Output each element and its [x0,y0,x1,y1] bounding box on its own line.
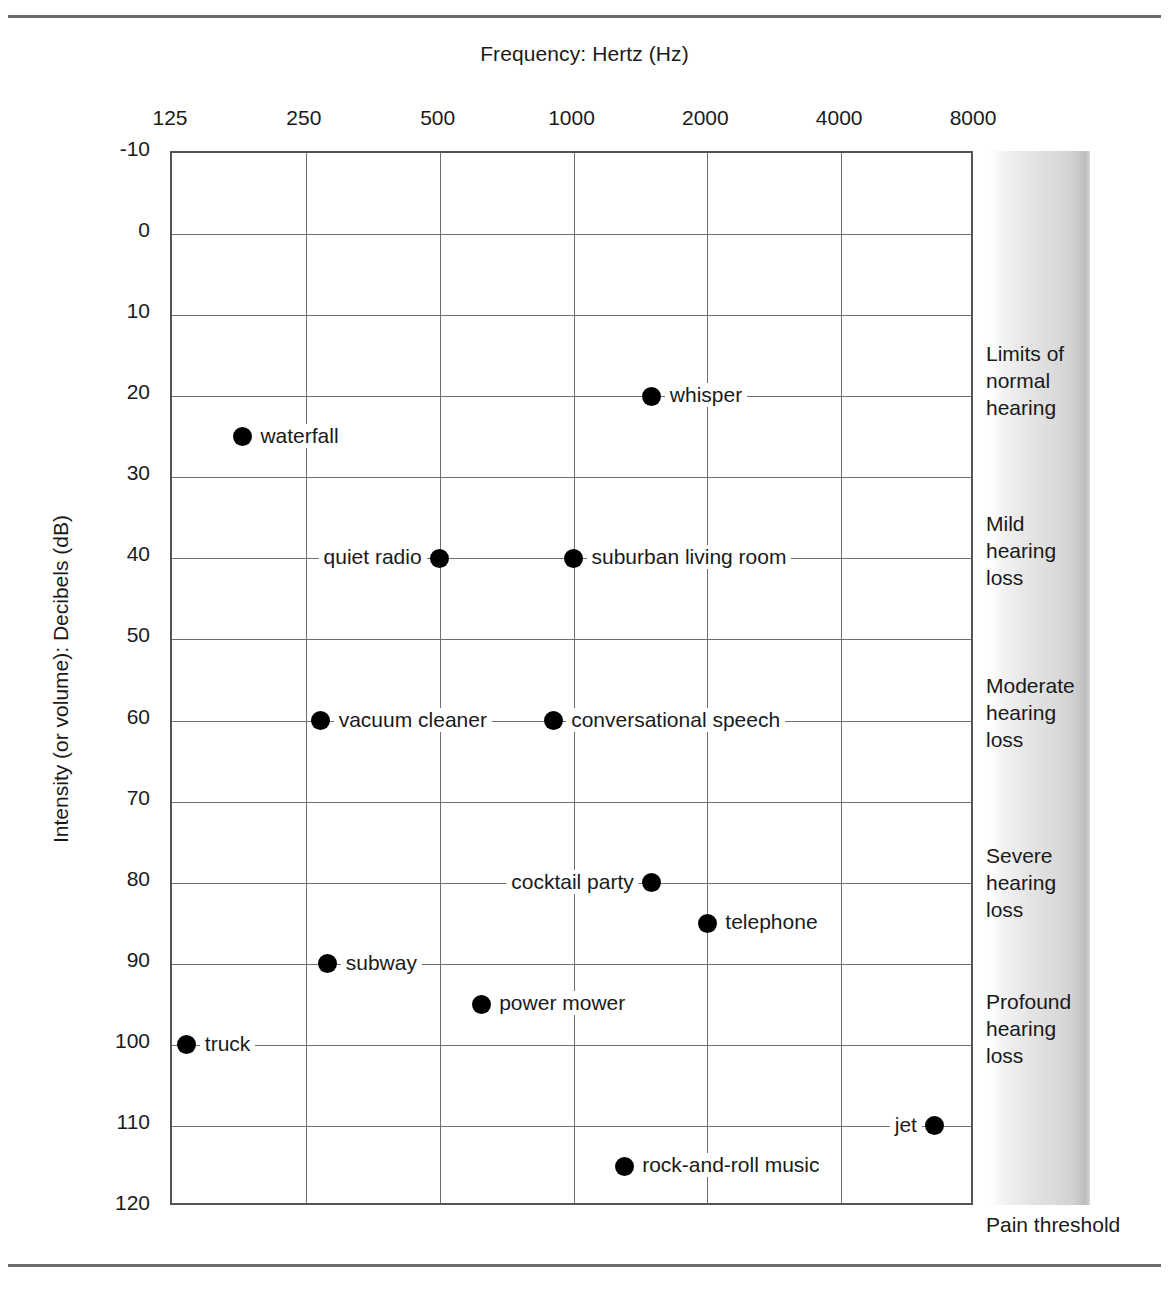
gridline-horizontal [172,1045,971,1046]
y-tick-label: 30 [70,461,150,485]
y-tick-label: 20 [70,380,150,404]
data-point-label: subway [341,951,422,975]
x-tick-label: 125 [125,106,215,130]
data-point [615,1157,634,1176]
bottom-divider-rule [8,1264,1161,1267]
data-point [233,427,252,446]
gridline-vertical [574,153,575,1203]
data-point [698,914,717,933]
audiogram-figure: Frequency: Hertz (Hz) Intensity (or volu… [0,0,1169,1305]
gridline-horizontal [172,234,971,235]
gridline-horizontal [172,1126,971,1127]
y-tick-label: -10 [70,137,150,161]
data-point-label: telephone [720,910,822,934]
gridline-vertical [841,153,842,1203]
hearing-loss-band-label: Profound hearing loss [986,988,1071,1069]
data-point-label: power mower [494,991,630,1015]
y-tick-label: 80 [70,867,150,891]
data-point-label: quiet radio [319,545,427,569]
y-tick-label: 0 [70,218,150,242]
gridline-horizontal [172,802,971,803]
hearing-loss-band-label: Limits of normal hearing [986,340,1064,421]
data-point [544,711,563,730]
y-tick-label: 110 [70,1110,150,1134]
data-point [430,549,449,568]
gridline-horizontal [172,477,971,478]
data-point [472,995,491,1014]
x-tick-label: 1000 [527,106,617,130]
y-tick-label: 70 [70,786,150,810]
data-point-label: conversational speech [566,708,785,732]
pain-threshold-label: Pain threshold [986,1213,1120,1237]
data-point [642,387,661,406]
y-tick-label: 120 [70,1191,150,1215]
data-point [318,954,337,973]
hearing-loss-band-label: Severe hearing loss [986,842,1056,923]
data-point [642,873,661,892]
y-tick-label: 60 [70,705,150,729]
gridline-vertical [306,153,307,1203]
x-tick-label: 8000 [928,106,1018,130]
data-point [564,549,583,568]
data-point-label: rock-and-roll music [637,1153,824,1177]
data-point-label: vacuum cleaner [334,708,492,732]
data-point-label: waterfall [255,424,343,448]
hearing-loss-band-label: Mild hearing loss [986,510,1056,591]
plot-area: waterfallwhisperquiet radiosuburban livi… [170,151,973,1205]
data-point [925,1116,944,1135]
x-tick-label: 2000 [660,106,750,130]
gridline-horizontal [172,315,971,316]
y-tick-label: 40 [70,542,150,566]
y-tick-label: 100 [70,1029,150,1053]
data-point-label: suburban living room [587,545,792,569]
y-tick-label: 10 [70,299,150,323]
x-tick-label: 500 [393,106,483,130]
gridline-vertical [707,153,708,1203]
data-point-label: cocktail party [506,870,639,894]
data-point-label: truck [200,1032,256,1056]
top-divider-rule [8,15,1161,18]
y-tick-label: 90 [70,948,150,972]
data-point [311,711,330,730]
y-tick-label: 50 [70,623,150,647]
data-point-label: whisper [665,383,747,407]
hearing-loss-band-label: Moderate hearing loss [986,672,1075,753]
gridline-horizontal [172,396,971,397]
y-axis-title: Intensity (or volume): Decibels (dB) [49,329,73,1029]
gridline-vertical [440,153,441,1203]
gridline-horizontal [172,964,971,965]
x-axis-title: Frequency: Hertz (Hz) [0,42,1169,66]
x-tick-label: 250 [259,106,349,130]
x-tick-label: 4000 [794,106,884,130]
data-point-label: jet [890,1113,922,1137]
data-point [177,1035,196,1054]
gridline-horizontal [172,639,971,640]
